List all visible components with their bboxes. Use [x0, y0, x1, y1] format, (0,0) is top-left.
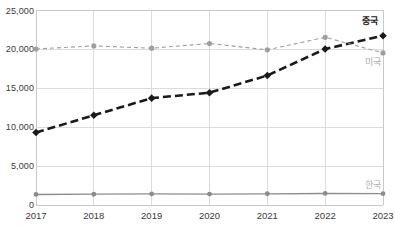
- data-point-marker: [149, 192, 154, 197]
- data-point-marker: [323, 191, 328, 196]
- x-tick-label: 2023: [363, 210, 395, 221]
- line-chart: 25,000 20,000 15,000 10,000 5,000 0 2017…: [0, 0, 395, 240]
- data-point-marker: [91, 192, 96, 197]
- x-tick-label: 2021: [247, 210, 287, 221]
- data-point-marker: [265, 47, 270, 52]
- x-tick-label: 2017: [16, 210, 56, 221]
- data-point-marker: [207, 41, 212, 46]
- data-point-marker: [34, 192, 39, 197]
- plot-area: [0, 0, 395, 240]
- data-point-marker: [206, 89, 214, 97]
- x-tick-label: 2022: [305, 210, 345, 221]
- x-tick-label: 2020: [190, 210, 230, 221]
- data-point-marker: [381, 191, 386, 196]
- data-point-marker: [32, 129, 40, 137]
- x-tick-label: 2018: [74, 210, 114, 221]
- data-point-marker: [91, 43, 96, 48]
- series-label-usa: 미국: [365, 55, 381, 68]
- data-point-marker: [379, 32, 387, 40]
- data-point-marker: [207, 192, 212, 197]
- data-point-marker: [265, 191, 270, 196]
- series-label-korea: 한국: [365, 178, 381, 191]
- data-point-marker: [380, 50, 385, 55]
- data-point-marker: [321, 45, 329, 53]
- data-point-marker: [323, 35, 328, 40]
- series-label-china: 중국: [362, 14, 378, 27]
- x-tick-label: 2019: [132, 210, 172, 221]
- data-point-marker: [90, 112, 98, 120]
- data-point-marker: [149, 46, 154, 51]
- data-point-marker: [148, 94, 156, 102]
- data-point-marker: [33, 46, 38, 51]
